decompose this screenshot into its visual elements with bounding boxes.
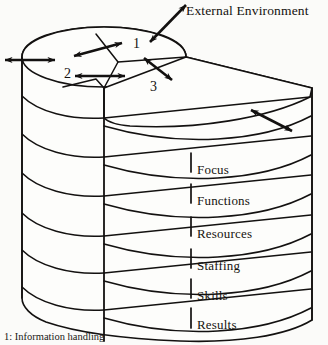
figure-canvas: External Environment 1 2 3 Focus Functio… <box>0 0 328 345</box>
layer-label-focus: Focus <box>197 163 229 176</box>
layer-label-results: Results <box>197 318 237 331</box>
layer-label-staffing: Staffing <box>197 259 240 272</box>
external-environment-label: External Environment <box>186 3 309 19</box>
organization-stack-diagram <box>0 0 328 345</box>
sector-number-2: 2 <box>64 67 71 81</box>
layer-label-functions: Functions <box>197 194 250 207</box>
figure-caption: 1: Information handling <box>4 331 104 342</box>
sector-number-1: 1 <box>133 37 140 51</box>
arrow-external-environment <box>150 5 186 42</box>
layer-label-resources: Resources <box>197 227 252 240</box>
sector-number-3: 3 <box>150 80 157 94</box>
layer-label-skills: Skills <box>197 289 228 302</box>
